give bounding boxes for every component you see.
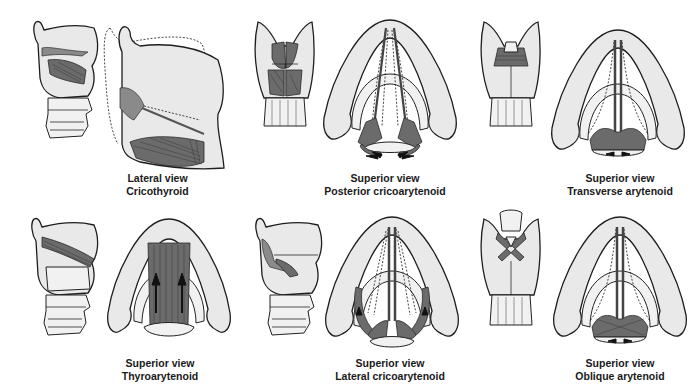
caption-view: Superior view	[545, 172, 695, 185]
caption-thyroarytenoid: Superior view Thyroarytenoid	[100, 357, 220, 383]
caption-view: Superior view	[310, 172, 460, 185]
larynx-posterior-small-illustration	[476, 209, 546, 329]
panel-cricothyroid: Lateral view Cricothyroid	[0, 0, 240, 195]
caption-view: Superior view	[545, 357, 695, 370]
caption-view: Superior view	[315, 357, 465, 370]
larynx-posterior-small-illustration	[250, 18, 320, 128]
caption-lateral-cricoarytenoid: Superior view Lateral cricoarytenoid	[315, 357, 465, 383]
panel-lateral-cricoarytenoid: Superior view Lateral cricoarytenoid	[240, 195, 470, 392]
larynx-posterior-small-illustration	[476, 18, 546, 128]
caption-view: Superior view	[100, 357, 220, 370]
larynx-superior-illustration	[548, 28, 688, 168]
caption-muscle: Thyroarytenoid	[100, 370, 220, 383]
larynx-lateral-large-illustration	[100, 24, 230, 174]
panel-oblique-arytenoid: Superior view Oblique arytenoid	[470, 195, 699, 392]
caption-muscle: Lateral cricoarytenoid	[315, 370, 465, 383]
larynx-superior-illustration	[104, 217, 234, 352]
larynx-superior-illustration	[322, 215, 462, 355]
panel-transverse-arytenoid: Superior view Transverse arytenoid	[470, 0, 699, 195]
panel-posterior-cricoarytenoid: Superior view Posterior cricoarytenoid	[240, 0, 470, 195]
caption-view: Lateral view	[100, 172, 215, 185]
larynx-superior-illustration	[320, 18, 460, 158]
larynx-superior-illustration	[550, 215, 690, 355]
panel-thyroarytenoid: Superior view Thyroarytenoid	[0, 195, 240, 392]
caption-oblique-arytenoid: Superior view Oblique arytenoid	[545, 357, 695, 383]
caption-muscle: Oblique arytenoid	[545, 370, 695, 383]
